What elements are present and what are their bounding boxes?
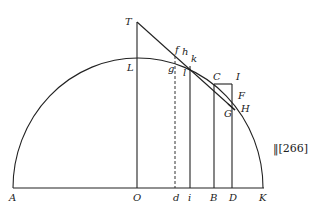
label-T: T [125, 16, 133, 27]
semicircle-arc [13, 58, 263, 188]
label-A: A [8, 192, 16, 203]
label-O: O [133, 192, 141, 203]
label-l: l [183, 67, 186, 78]
label-D: D [228, 192, 237, 203]
label-G: G [224, 108, 232, 119]
label-C: C [213, 71, 221, 82]
label-H: H [240, 103, 250, 114]
label-L: L [126, 62, 134, 73]
page-reference: ‖[266] [273, 142, 308, 156]
label-i: i [188, 192, 191, 203]
label-h: h [182, 46, 188, 57]
label-I: I [235, 71, 241, 82]
geometry-diagram: T L f h k g l C I F H G A O d i B D K ‖[… [0, 0, 316, 211]
label-f: f [174, 44, 181, 55]
label-F: F [237, 90, 246, 101]
label-g: g [168, 63, 174, 74]
label-B: B [209, 192, 217, 203]
tangent-line-TH [137, 22, 235, 110]
label-k: k [191, 53, 197, 64]
label-d: d [173, 192, 179, 203]
label-K: K [258, 192, 267, 203]
